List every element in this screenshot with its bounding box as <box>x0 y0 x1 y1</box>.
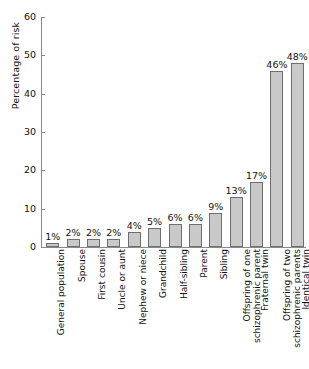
x-axis-label: Grandchild <box>158 249 168 367</box>
x-axis-label-line: Half-sibling <box>179 249 189 367</box>
x-axis-label: Identical twin <box>301 249 309 367</box>
x-axis-label-line: Offspring of one <box>242 249 252 367</box>
x-axis-label: Nephew or niece <box>138 249 148 367</box>
bar-value-label: 13% <box>226 185 247 196</box>
bar-group: 13% <box>230 17 243 247</box>
bar-value-label: 48% <box>287 51 308 62</box>
x-axis-label: General population <box>56 249 66 367</box>
bar <box>67 239 80 247</box>
bar <box>46 243 59 247</box>
x-axis-label-line: Uncle or aunt <box>117 249 127 367</box>
bar-value-label: 4% <box>127 220 142 231</box>
bar-group: 2% <box>107 17 120 247</box>
bar <box>148 228 161 247</box>
bar-value-label: 9% <box>208 201 223 212</box>
y-tick-mark <box>41 247 45 248</box>
bar <box>209 213 222 248</box>
x-axis-label-line: General population <box>56 249 66 367</box>
x-axis-label: First cousin <box>97 249 107 367</box>
x-axis-label-line: Sibling <box>219 249 229 367</box>
bar-value-label: 46% <box>266 59 287 70</box>
x-axis-label: Offspring of oneschizophrenic parent <box>242 249 262 367</box>
y-tick-label: 10 <box>6 203 36 214</box>
y-tick-label: 50 <box>6 49 36 60</box>
bar <box>107 239 120 247</box>
x-axis-labels: General populationSpouseFirst cousinUncl… <box>41 249 306 369</box>
risk-bar-chart: Percentage of risk 0102030405060 1%2%2%2… <box>0 0 309 369</box>
x-axis-label-line: First cousin <box>97 249 107 367</box>
bar-group: 48% <box>291 17 304 247</box>
x-axis-label-line: Grandchild <box>158 249 168 367</box>
bar-group: 4% <box>128 17 141 247</box>
x-axis-label: Offspring of twoschizophrenic parents <box>282 249 302 367</box>
bar-value-label: 2% <box>66 227 81 238</box>
bar-group: 9% <box>209 17 222 247</box>
x-axis-line <box>41 247 306 248</box>
bar <box>189 224 202 247</box>
x-axis-label-line: Parent <box>199 249 209 367</box>
x-axis-label-line: Identical twin <box>301 249 309 367</box>
bar-group: 2% <box>67 17 80 247</box>
bar <box>270 71 283 247</box>
bar <box>291 63 304 247</box>
bar-group: 17% <box>250 17 263 247</box>
x-axis-label: Parent <box>199 249 209 367</box>
x-axis-label-line: Spouse <box>77 249 87 367</box>
x-axis-label: Sibling <box>219 249 229 367</box>
x-axis-label-line: Offspring of two <box>282 249 292 367</box>
bar-group: 6% <box>169 17 182 247</box>
bar <box>128 232 141 247</box>
bar-group: 6% <box>189 17 202 247</box>
bar-value-label: 5% <box>147 216 162 227</box>
bar-value-label: 2% <box>86 227 101 238</box>
bar <box>230 197 243 247</box>
x-axis-label-line: Nephew or niece <box>138 249 148 367</box>
x-axis-label: Spouse <box>77 249 87 367</box>
bar-value-label: 1% <box>45 231 60 242</box>
plot-area: 1%2%2%2%4%5%6%6%9%13%17%46%48% <box>41 17 306 247</box>
x-axis-label: Uncle or aunt <box>117 249 127 367</box>
bar-group: 2% <box>87 17 100 247</box>
bar <box>87 239 100 247</box>
y-tick-label: 20 <box>6 164 36 175</box>
bar-value-label: 6% <box>167 212 182 223</box>
bar-group: 5% <box>148 17 161 247</box>
x-axis-label: Fraternal twin <box>260 249 270 367</box>
bar-group: 46% <box>270 17 283 247</box>
bar-group: 1% <box>46 17 59 247</box>
y-tick-label: 30 <box>6 126 36 137</box>
bar-value-label: 2% <box>106 227 121 238</box>
y-tick-label: 0 <box>6 241 36 252</box>
bar <box>250 182 263 247</box>
x-axis-label-line: Fraternal twin <box>260 249 270 367</box>
bar-value-label: 6% <box>188 212 203 223</box>
bar <box>169 224 182 247</box>
bar-value-label: 17% <box>246 170 267 181</box>
y-tick-label: 60 <box>6 11 36 22</box>
y-tick-label: 40 <box>6 88 36 99</box>
x-axis-label: Half-sibling <box>179 249 189 367</box>
